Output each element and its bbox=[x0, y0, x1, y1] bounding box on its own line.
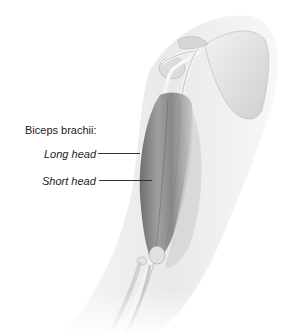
long-head-label: Long head bbox=[44, 149, 96, 160]
short-head-label: Short head bbox=[42, 176, 96, 187]
long-head-leader-line bbox=[98, 153, 140, 154]
short-head-leader-line bbox=[99, 180, 152, 181]
biceps-illustration: Biceps brachii: Long head Short head bbox=[0, 0, 298, 336]
muscle-title-label: Biceps brachii: bbox=[25, 125, 97, 136]
elbow-epicondyle bbox=[149, 246, 165, 264]
arm-anatomy-drawing bbox=[0, 0, 298, 336]
